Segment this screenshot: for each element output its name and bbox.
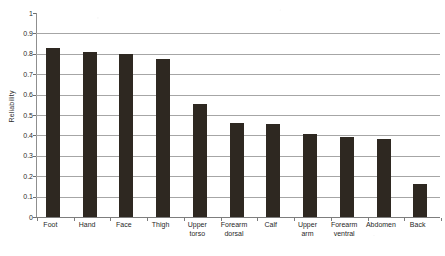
bar[interactable] — [340, 137, 354, 217]
bar[interactable] — [83, 52, 97, 217]
y-axis-tick-label: 0 — [11, 214, 33, 221]
y-axis-tick-label: 0.3 — [11, 152, 33, 159]
bar[interactable] — [46, 48, 60, 217]
bar[interactable] — [156, 59, 170, 217]
x-axis-tick-label: Calf — [250, 221, 292, 230]
x-axis-tick-label-line: Foot — [29, 221, 71, 230]
x-axis-tick-label-line: Upper — [176, 221, 218, 230]
x-axis-tick-labels: FootHandFaceThighUppertorsoForearmdorsal… — [36, 221, 440, 255]
y-axis-tick-label: 0.2 — [11, 173, 33, 180]
x-axis-tick-mark — [441, 218, 442, 221]
bar[interactable] — [193, 104, 207, 217]
bar[interactable] — [303, 134, 317, 217]
y-axis-tick-label: 0.5 — [11, 112, 33, 119]
bar-series — [36, 13, 440, 218]
x-axis-tick-label: Uppertorso — [176, 221, 218, 238]
x-axis-tick-label-line: ventral — [323, 230, 365, 239]
y-axis-tick-label: 0.9 — [11, 30, 33, 37]
y-axis-tick-label: 0.8 — [11, 50, 33, 57]
x-axis-tick-label-line: Upper — [286, 221, 328, 230]
x-axis-tick-label-line: Calf — [250, 221, 292, 230]
bar[interactable] — [266, 124, 280, 217]
y-axis-tick-label: 0.6 — [11, 91, 33, 98]
x-axis-tick-label: Abdomen — [360, 221, 402, 230]
x-axis-tick-label-line: Hand — [66, 221, 108, 230]
x-axis-tick-label-line: Abdomen — [360, 221, 402, 230]
x-axis-tick-label-line: Forearm — [213, 221, 255, 230]
x-axis-tick-label-line: Forearm — [323, 221, 365, 230]
x-axis-tick-label: Foot — [29, 221, 71, 230]
x-axis-tick-label-line: dorsal — [213, 230, 255, 239]
x-axis-tick-label: Hand — [66, 221, 108, 230]
x-axis-tick-label: Forearmdorsal — [213, 221, 255, 238]
bar[interactable] — [119, 54, 133, 217]
x-axis-tick-label: Forearmventral — [323, 221, 365, 238]
x-axis-tick-label: Face — [103, 221, 145, 230]
y-axis-tick-label: 0.1 — [11, 193, 33, 200]
bar[interactable] — [377, 139, 391, 217]
x-axis-tick-label-line: Thigh — [140, 221, 182, 230]
x-axis-tick-label-line: Face — [103, 221, 145, 230]
x-axis-tick-label-line: Back — [397, 221, 439, 230]
x-axis-tick-label-line: torso — [176, 230, 218, 239]
y-axis-tick-label: 0.7 — [11, 71, 33, 78]
x-axis-tick-label: Upperarm — [286, 221, 328, 238]
bar[interactable] — [413, 184, 427, 217]
bar-chart: Reliability 10.90.80.70.60.50.40.30.20.1… — [0, 0, 445, 256]
y-axis-tick-labels: 10.90.80.70.60.50.40.30.20.10 — [10, 0, 33, 256]
x-axis-tick-label: Thigh — [140, 221, 182, 230]
y-axis-tick-label: 1 — [11, 10, 33, 17]
plot-area — [36, 13, 440, 218]
x-axis-tick-label: Back — [397, 221, 439, 230]
bar[interactable] — [230, 123, 244, 217]
x-axis-tick-label-line: arm — [286, 230, 328, 239]
y-axis-tick-label: 0.4 — [11, 132, 33, 139]
